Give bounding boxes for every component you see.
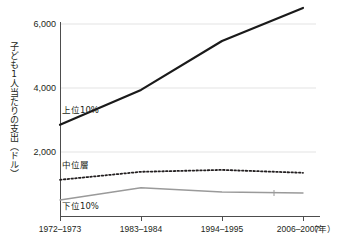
x-tick-label-2: 1994–1995 <box>201 224 244 234</box>
x-axis-unit-label: （年） <box>309 224 336 234</box>
gridlines <box>60 24 316 152</box>
series-line-middle <box>60 170 303 180</box>
y-tick-label-4000: 4,000 <box>33 83 56 93</box>
series-annotation-bottom10: 下位10% <box>62 201 99 211</box>
x-tick-label-1: 1983–1984 <box>120 224 163 234</box>
x-tick-label-0: 1972–1973 <box>39 224 82 234</box>
series-annotation-middle: 中位層 <box>62 160 89 170</box>
chart-figure: 子ども1人当たりの支出（ドル） 6,000 4,000 2,000 1972–1… <box>0 0 347 245</box>
line-chart-svg: 6,000 4,000 2,000 1972–1973 1983–1984 19… <box>0 0 347 245</box>
series-annotation-top10: 上位10% <box>62 105 99 115</box>
series-line-bottom10 <box>60 188 303 200</box>
y-tick-label-6000: 6,000 <box>33 19 56 29</box>
x-axis-ticks <box>61 217 304 222</box>
y-tick-label-2000: 2,000 <box>33 147 56 157</box>
